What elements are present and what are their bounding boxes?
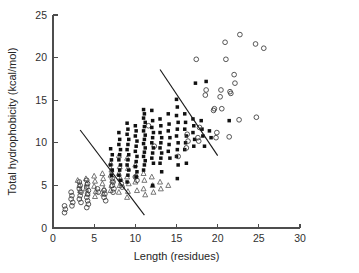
data-point-filled [176,148,180,152]
data-point-filled [151,184,155,188]
y-tick-label: 0 [41,222,47,234]
y-tick-label: 10 [35,136,47,148]
data-point-open [233,81,238,86]
scatter-plot-figure: 0510152025300510152025 Length (residues)… [0,0,359,273]
data-point-open [254,115,259,120]
data-point-filled [134,134,138,138]
data-point-filled [167,112,171,116]
data-point-triangle [142,178,147,183]
data-point-filled [150,109,154,113]
data-point-filled [110,158,114,162]
data-point-filled [125,133,129,137]
series-open-circle-high [176,32,266,159]
data-point-filled [143,138,147,142]
data-point-filled [143,163,147,167]
data-point-filled [125,163,129,167]
y-tick-label: 15 [35,94,47,106]
data-point-filled [183,112,187,116]
data-point-filled [175,98,179,102]
data-point-filled [167,143,171,147]
data-point-filled [118,168,122,172]
data-point-filled [151,119,155,123]
data-point-filled [158,161,162,165]
data-point-triangle [158,179,163,184]
data-points-group [62,32,266,215]
x-tick-label: 20 [212,232,224,244]
data-point-filled [191,131,195,135]
data-point-filled [158,146,162,150]
data-point-filled [125,148,129,152]
data-point-filled [135,155,139,159]
data-point-filled [151,136,155,140]
data-point-triangle [158,186,163,191]
data-point-filled [160,170,164,174]
data-point-filled [159,124,163,128]
data-point-triangle [141,186,146,191]
data-point-filled [142,129,146,133]
data-point-filled [176,177,180,181]
data-point-filled [134,144,138,148]
x-tick-label: 10 [129,232,141,244]
series-filled-square [109,80,231,187]
data-point-filled [134,124,138,128]
data-point-filled [142,168,146,172]
y-tick-label: 20 [35,51,47,63]
data-point-filled [134,129,138,133]
data-point-filled [176,127,180,131]
data-point-filled [143,150,147,154]
data-point-filled [151,151,155,155]
data-point-filled [158,131,162,135]
data-point-filled [117,143,121,147]
data-point-filled [111,153,115,157]
data-point-filled [160,151,164,155]
data-point-open [194,57,199,62]
data-point-filled [143,121,147,125]
data-point-filled [175,114,179,118]
data-point-filled [168,136,172,140]
data-point-filled [126,143,130,147]
y-axis-title: Total hydrophobicity (kcal/mol) [6,48,18,196]
data-point-filled [176,121,180,125]
x-tick-label: 5 [91,232,97,244]
data-point-filled [150,126,154,129]
data-point-filled [127,153,131,157]
data-point-filled [118,153,122,157]
data-point-filled [126,158,130,162]
data-point-filled [126,127,130,131]
data-point-triangle [100,181,105,186]
data-point-triangle [134,188,139,193]
data-point-filled [117,131,121,135]
data-point-filled [176,105,180,109]
data-point-filled [150,141,154,145]
data-point-open [261,46,266,51]
data-point-filled [185,161,189,165]
data-point-triangle [92,173,97,178]
data-point-filled [142,155,146,159]
data-point-filled [109,147,113,151]
data-point-open [227,134,232,139]
data-point-filled [152,131,156,135]
data-point-filled [127,168,131,172]
data-point-triangle [101,176,106,181]
data-point-filled [176,141,180,145]
data-point-filled [135,170,139,174]
data-point-triangle [149,174,154,179]
data-point-triangle [143,192,148,197]
data-point-filled [126,173,130,177]
data-point-open [223,40,228,45]
data-point-open [232,72,237,77]
data-point-filled [109,163,113,167]
plot-canvas: 0510152025300510152025 Length (residues)… [0,0,359,273]
data-point-open [228,91,233,96]
data-point-filled [192,144,196,148]
data-point-filled [143,146,147,150]
data-point-filled [135,139,139,143]
tick-labels-group: 0510152025300510152025 [35,9,306,244]
data-point-filled [183,127,187,131]
data-point-filled [119,163,123,167]
data-point-open [224,57,229,62]
data-point-filled [142,116,146,120]
data-point-filled [194,81,198,85]
data-point-filled [203,144,207,148]
data-point-filled [127,138,131,142]
